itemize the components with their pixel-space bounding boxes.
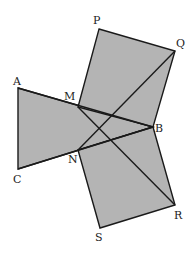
label-s: S xyxy=(95,231,103,244)
geometry-diagram: P Q A M B N C R S xyxy=(0,0,194,256)
label-b: B xyxy=(155,122,163,135)
label-m: M xyxy=(64,90,75,103)
label-r: R xyxy=(174,209,183,222)
label-n: N xyxy=(68,153,78,166)
label-q: Q xyxy=(176,37,185,50)
label-p: P xyxy=(93,14,101,27)
label-a: A xyxy=(12,75,22,88)
label-c: C xyxy=(13,173,21,186)
